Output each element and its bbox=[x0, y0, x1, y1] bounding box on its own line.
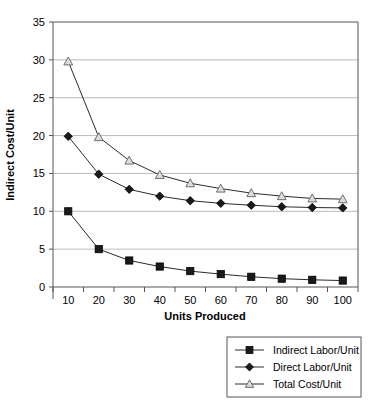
marker-square bbox=[187, 268, 194, 275]
marker-square bbox=[278, 275, 285, 282]
y-tick-label: 5 bbox=[39, 243, 45, 255]
marker-square bbox=[248, 273, 255, 280]
x-tick-label: 40 bbox=[154, 294, 166, 306]
marker-square bbox=[246, 347, 253, 354]
x-tick-label: 80 bbox=[276, 294, 288, 306]
y-tick-label: 0 bbox=[39, 281, 45, 293]
x-tick-label: 100 bbox=[334, 294, 352, 306]
legend-label: Direct Labor/Unit bbox=[273, 361, 352, 373]
marker-square bbox=[339, 277, 346, 284]
y-tick-label: 15 bbox=[33, 167, 45, 179]
y-tick-label: 30 bbox=[33, 54, 45, 66]
marker-square bbox=[95, 246, 102, 253]
x-tick-label: 60 bbox=[215, 294, 227, 306]
x-tick-label: 20 bbox=[93, 294, 105, 306]
x-tick-label: 30 bbox=[123, 294, 135, 306]
y-tick-label: 25 bbox=[33, 92, 45, 104]
marker-square bbox=[309, 276, 316, 283]
legend-label: Indirect Labor/Unit bbox=[273, 344, 359, 356]
x-tick-label: 70 bbox=[245, 294, 257, 306]
y-tick-label: 35 bbox=[33, 16, 45, 28]
y-tick-label: 10 bbox=[33, 205, 45, 217]
marker-square bbox=[65, 208, 72, 215]
cost-per-unit-chart: 05101520253035 102030405060708090100 Ind… bbox=[0, 0, 369, 402]
legend-label: Total Cost/Unit bbox=[273, 378, 341, 390]
x-tick-label: 90 bbox=[306, 294, 318, 306]
marker-square bbox=[156, 263, 163, 270]
chart-legend: Indirect Labor/UnitDirect Labor/UnitTota… bbox=[227, 337, 361, 397]
marker-square bbox=[126, 257, 133, 264]
x-axis-title: Units Produced bbox=[164, 310, 245, 322]
marker-square bbox=[217, 271, 224, 278]
x-tick-label: 50 bbox=[184, 294, 196, 306]
chart-canvas: 05101520253035 102030405060708090100 Ind… bbox=[0, 0, 369, 402]
y-tick-label: 20 bbox=[33, 130, 45, 142]
y-axis-title: Indirect Cost/Unit bbox=[4, 109, 16, 201]
x-tick-label: 10 bbox=[62, 294, 74, 306]
